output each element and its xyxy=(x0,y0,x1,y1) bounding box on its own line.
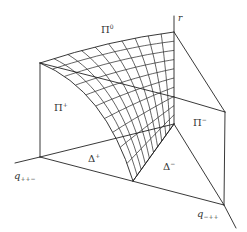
label-pi0: Π0 xyxy=(101,24,114,35)
diagram-canvas xyxy=(0,0,247,232)
mesh-line-v xyxy=(53,41,174,69)
wall-right-top xyxy=(174,32,225,112)
label-pi-minus: Π− xyxy=(193,117,207,128)
axis-q-mpp xyxy=(224,205,236,228)
floor-edge-left xyxy=(40,157,224,205)
mesh-line-u xyxy=(122,41,158,147)
label-pi-plus: Π+ xyxy=(54,102,68,113)
wall-right-vertical xyxy=(224,112,225,205)
surface-left-edge xyxy=(40,63,133,181)
label-delta-minus: Δ− xyxy=(163,161,175,172)
floor-edge-right xyxy=(174,124,224,205)
mesh-line-u xyxy=(161,34,170,130)
axis-q-ppm xyxy=(15,157,40,163)
mesh-line-u xyxy=(135,38,162,141)
label-axis-r: r xyxy=(178,14,182,23)
label-axis-q-mpp: q−++ xyxy=(197,209,219,220)
label-axis-q-ppm: q++− xyxy=(14,171,36,182)
surface-mesh xyxy=(53,34,174,176)
diagram: Π0 Π+ Π− Δ+ Δ− r q++− q−++ xyxy=(0,0,247,232)
label-delta-plus: Δ+ xyxy=(88,153,100,164)
